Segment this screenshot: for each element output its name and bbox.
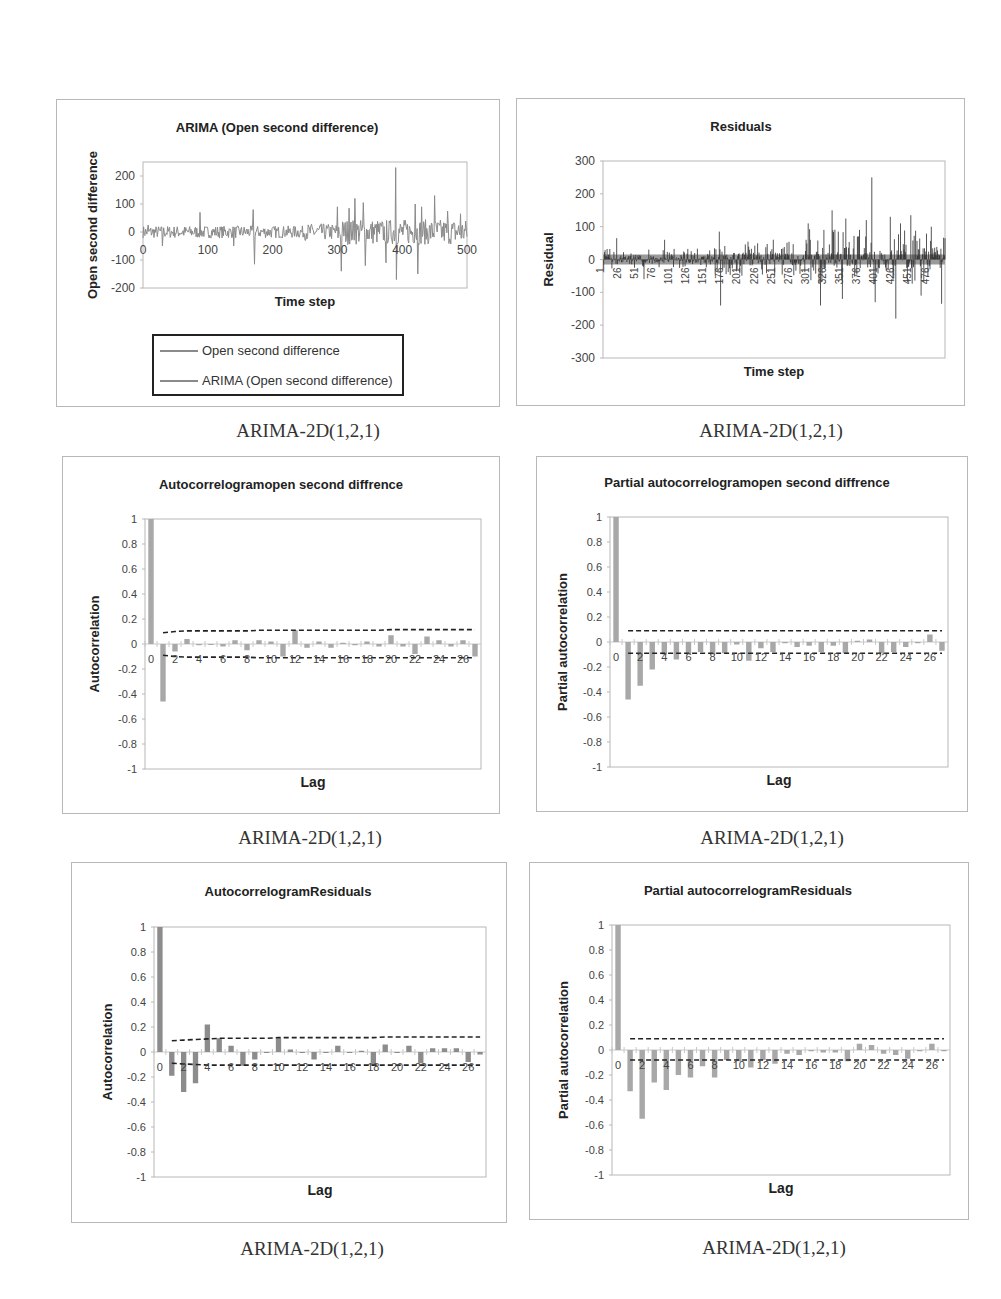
lag-bar xyxy=(724,1050,729,1060)
figure-caption: ARIMA-2D(1,2,1) xyxy=(160,827,460,849)
x-tick-label: 2 xyxy=(181,1061,187,1073)
y-tick-label: -0.8 xyxy=(585,1144,604,1156)
lag-bar xyxy=(220,644,225,647)
lag-bar xyxy=(196,644,201,645)
y-tick-label: -200 xyxy=(111,281,135,295)
lag-bar xyxy=(869,1045,874,1050)
lag-bar xyxy=(268,642,273,645)
x-tick-label: 24 xyxy=(433,653,445,665)
lag-bar xyxy=(782,642,787,643)
y-tick-label: -0.6 xyxy=(585,1119,604,1131)
x-tick-label: 18 xyxy=(829,1059,841,1071)
x-tick-label: 1 xyxy=(595,267,606,273)
x-tick-label: 18 xyxy=(361,653,373,665)
lag-bar xyxy=(252,1052,257,1060)
lag-bar xyxy=(905,1050,910,1059)
bar-chart-residuals: ResidualsResidual3002001000-100-200-3001… xyxy=(517,99,966,407)
x-tick-label: 14 xyxy=(313,653,325,665)
lag-bar xyxy=(160,644,165,702)
lag-bar xyxy=(698,642,703,652)
x-tick-label: 8 xyxy=(244,653,250,665)
lag-bar xyxy=(831,642,836,646)
legend-label: ARIMA (Open second difference) xyxy=(202,373,393,388)
lag-bar xyxy=(304,644,309,648)
lag-bar xyxy=(430,1048,435,1052)
y-tick-label: 0.8 xyxy=(122,538,137,550)
x-tick-label: 4 xyxy=(204,1061,210,1073)
lag-bar xyxy=(400,644,405,647)
x-tick-label: 12 xyxy=(289,653,301,665)
y-tick-label: 0.2 xyxy=(589,1019,604,1031)
x-tick-label: 20 xyxy=(391,1061,403,1073)
lag-bar xyxy=(806,642,811,646)
lag-bar xyxy=(276,1038,281,1052)
y-tick-label: -1 xyxy=(592,761,602,773)
y-tick-label: 0 xyxy=(128,225,135,239)
legend-line-icon xyxy=(160,380,198,382)
x-tick-label: 100 xyxy=(198,243,218,257)
chart-title: Partial autocorrelogramResiduals xyxy=(644,883,852,898)
lag-bar xyxy=(650,642,655,670)
x-tick-label: 0 xyxy=(613,651,619,663)
y-axis-label: Residual xyxy=(541,232,556,286)
bar-chart-pacf-series: Partial autocorrelogramopen second diffr… xyxy=(537,457,969,813)
lag-bar xyxy=(917,1050,922,1051)
x-tick-label: 6 xyxy=(687,1059,693,1071)
x-tick-label: 18 xyxy=(367,1061,379,1073)
y-tick-label: -0.8 xyxy=(127,1146,146,1158)
x-tick-label: 12 xyxy=(755,651,767,663)
y-tick-label: -100 xyxy=(111,253,135,267)
lag-bar xyxy=(891,642,896,652)
y-tick-label: -0.2 xyxy=(118,663,137,675)
lag-bar xyxy=(311,1052,316,1060)
x-tick-label: 8 xyxy=(712,1059,718,1071)
x-tick-label: 22 xyxy=(409,653,421,665)
lag-bar xyxy=(929,1044,934,1050)
lag-bar xyxy=(359,1051,364,1052)
lag-bar xyxy=(722,642,727,653)
lag-bar xyxy=(939,642,944,651)
x-tick-label: 300 xyxy=(327,243,347,257)
lag-bar xyxy=(352,644,357,645)
lag-bar xyxy=(232,640,237,644)
lag-bar xyxy=(794,642,799,647)
figure-caption: ARIMA-2D(1,2,1) xyxy=(158,420,458,442)
lag-bar xyxy=(676,1050,681,1075)
x-tick-label: 12 xyxy=(757,1059,769,1071)
lag-bar xyxy=(172,644,177,652)
bar-chart-acf-series: Autocorrelogramopen second diffrenceAuto… xyxy=(63,457,501,815)
lag-bar xyxy=(184,639,189,644)
x-tick-label: 76 xyxy=(646,267,657,279)
lag-bar xyxy=(217,1038,222,1052)
lag-bar xyxy=(796,1050,801,1055)
y-tick-label: 200 xyxy=(115,169,135,183)
x-tick-label: 226 xyxy=(749,267,760,284)
x-tick-label: 301 xyxy=(800,267,811,284)
chart-title: Partial autocorrelogramopen second diffr… xyxy=(604,475,889,490)
lag-bar xyxy=(700,1050,705,1066)
y-tick-label: -0.8 xyxy=(583,736,602,748)
y-tick-label: 1 xyxy=(131,513,137,525)
lag-bar xyxy=(244,644,249,650)
x-tick-label: 0 xyxy=(157,1061,163,1073)
x-axis-label: Lag xyxy=(301,774,326,790)
x-tick-label: 24 xyxy=(900,651,912,663)
y-tick-label: 1 xyxy=(596,511,602,523)
y-axis-label: Autocorrelation xyxy=(87,596,102,693)
x-tick-label: 200 xyxy=(263,243,283,257)
y-tick-label: -1 xyxy=(127,763,137,775)
chart-panel-series: ARIMA (Open second difference)Open secon… xyxy=(56,99,500,407)
y-tick-label: -0.8 xyxy=(118,738,137,750)
x-axis-label: Lag xyxy=(308,1182,333,1198)
y-tick-label: 300 xyxy=(575,154,595,168)
y-tick-label: -200 xyxy=(571,318,595,332)
lag-bar xyxy=(746,642,751,661)
lag-bar xyxy=(613,517,618,642)
chart-legend: Open second difference ARIMA (Open secon… xyxy=(152,334,404,396)
x-tick-label: 400 xyxy=(392,243,412,257)
y-tick-label: 0 xyxy=(131,638,137,650)
x-tick-label: 12 xyxy=(296,1061,308,1073)
x-tick-label: 16 xyxy=(337,653,349,665)
x-tick-label: 14 xyxy=(779,651,791,663)
x-tick-label: 4 xyxy=(663,1059,669,1071)
